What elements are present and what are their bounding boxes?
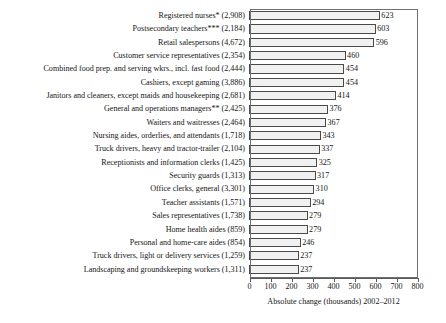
- bar: [249, 158, 317, 167]
- bar-category-label: Sales representatives (1,738): [0, 209, 249, 222]
- bar-rows: Registered nurses* (2,908)623Postseconda…: [0, 9, 446, 276]
- bar-value-label: 376: [328, 102, 342, 115]
- bar-row: General and operations managers** (2,425…: [0, 102, 446, 115]
- bar-track: 367: [249, 116, 446, 129]
- bar-category-label: Office clerks, general (3,301): [0, 182, 249, 195]
- bar-track: 246: [249, 236, 446, 249]
- bar-track: 237: [249, 249, 446, 262]
- bar-value-label: 367: [326, 116, 340, 129]
- bar-row: Janitors and cleaners, except maids and …: [0, 89, 446, 102]
- bar-track: 343: [249, 129, 446, 142]
- bar-category-label: Truck drivers, heavy and tractor-trailer…: [0, 142, 249, 155]
- bar: [249, 185, 314, 194]
- bar-row: Office clerks, general (3,301)310: [0, 182, 446, 195]
- x-axis-tick: [292, 278, 293, 282]
- bar: [249, 38, 374, 47]
- bar: [249, 198, 311, 207]
- bar-track: 603: [249, 22, 446, 35]
- bar-row: Nursing aides, orderlies, and attendants…: [0, 129, 446, 142]
- x-axis-tick-label: 500: [348, 282, 360, 292]
- bar: [249, 251, 299, 260]
- bar-row: Cashiers, except gaming (3,886)454: [0, 76, 446, 89]
- bar-track: 310: [249, 182, 446, 195]
- bar-row: Waiters and waitresses (2,464)367: [0, 116, 446, 129]
- bar-value-label: 454: [344, 76, 358, 89]
- x-axis-tick-label: 300: [306, 282, 318, 292]
- bar-category-label: Postsecondary teachers*** (2,184): [0, 22, 249, 35]
- bar: [249, 11, 380, 20]
- x-axis-tick: [376, 278, 377, 282]
- x-axis-tick-label: 800: [411, 282, 423, 292]
- bar: [249, 265, 299, 274]
- bar: [249, 171, 316, 180]
- bar-track: 317: [249, 169, 446, 182]
- bar-value-label: 237: [299, 249, 313, 262]
- bar-value-label: 279: [308, 223, 322, 236]
- bar-track: 454: [249, 76, 446, 89]
- bar-row: Personal and home-care aides (854)246: [0, 236, 446, 249]
- x-axis-tick: [334, 278, 335, 282]
- bar-row: Receptionists and information clerks (1,…: [0, 156, 446, 169]
- bar-row: Home health aides (859)279: [0, 223, 446, 236]
- bar-category-label: Registered nurses* (2,908): [0, 9, 249, 22]
- bar-track: 237: [249, 263, 446, 276]
- bar-track: 279: [249, 209, 446, 222]
- bar-row: Teacher assistants (1,571)294: [0, 196, 446, 209]
- bar-row: Security guards (1,313)317: [0, 169, 446, 182]
- x-axis-tick-label: 600: [369, 282, 381, 292]
- bar: [249, 24, 376, 33]
- bar-value-label: 596: [374, 36, 388, 49]
- bar-value-label: 343: [321, 129, 335, 142]
- x-axis-tick: [397, 278, 398, 282]
- bar-value-label: 246: [301, 236, 315, 249]
- bar-row: Sales representatives (1,738)279: [0, 209, 446, 222]
- bar-row: Retail salespersons (4,672)596: [0, 36, 446, 49]
- x-axis-tick: [271, 278, 272, 282]
- bar: [249, 64, 344, 73]
- x-axis-tick-label: 0: [247, 282, 251, 292]
- bar-category-label: Receptionists and information clerks (1,…: [0, 156, 249, 169]
- bar: [249, 211, 308, 220]
- bar-row: Combined food prep. and serving wkrs., i…: [0, 62, 446, 75]
- bar-category-label: Teacher assistants (1,571): [0, 196, 249, 209]
- bar-category-label: Truck drivers, light or delivery service…: [0, 249, 249, 262]
- bar-row: Truck drivers, heavy and tractor-trailer…: [0, 142, 446, 155]
- bar-category-label: Waiters and waitresses (2,464): [0, 116, 249, 129]
- bar: [249, 225, 308, 234]
- bar: [249, 118, 326, 127]
- bar-track: 325: [249, 156, 446, 169]
- bar-value-label: 460: [346, 49, 360, 62]
- bar-value-label: 325: [317, 156, 331, 169]
- bar-track: 279: [249, 223, 446, 236]
- x-axis-title: Absolute change (thousands) 2002–2012: [250, 296, 418, 307]
- bar-track: 454: [249, 62, 446, 75]
- bar-row: Landscaping and groundskeeping workers (…: [0, 263, 446, 276]
- bar: [249, 238, 301, 247]
- bar-row: Customer service representatives (2,354)…: [0, 49, 446, 62]
- bar-track: 414: [249, 89, 446, 102]
- bar-category-label: Landscaping and groundskeeping workers (…: [0, 263, 249, 276]
- bar: [249, 105, 328, 114]
- bar-value-label: 414: [336, 89, 350, 102]
- bar-value-label: 310: [314, 182, 328, 195]
- bar-value-label: 337: [320, 142, 334, 155]
- bar-category-label: Home health aides (859): [0, 223, 249, 236]
- bar-category-label: Retail salespersons (4,672): [0, 36, 249, 49]
- bar: [249, 131, 321, 140]
- bar-track: 337: [249, 142, 446, 155]
- bar-value-label: 237: [299, 263, 313, 276]
- bar-category-label: Customer service representatives (2,354): [0, 49, 249, 62]
- bar-category-label: Combined food prep. and serving wkrs., i…: [0, 62, 249, 75]
- bar-chart: Registered nurses* (2,908)623Postseconda…: [0, 0, 446, 323]
- bar: [249, 145, 320, 154]
- bar: [249, 91, 336, 100]
- bar-row: Registered nurses* (2,908)623: [0, 9, 446, 22]
- x-axis-tick-label: 400: [327, 282, 339, 292]
- bar-category-label: Janitors and cleaners, except maids and …: [0, 89, 249, 102]
- bar-track: 376: [249, 102, 446, 115]
- bar-value-label: 623: [380, 9, 394, 22]
- x-axis-tick: [418, 278, 419, 282]
- bar-category-label: Security guards (1,313): [0, 169, 249, 182]
- bar: [249, 51, 346, 60]
- x-axis-tick: [355, 278, 356, 282]
